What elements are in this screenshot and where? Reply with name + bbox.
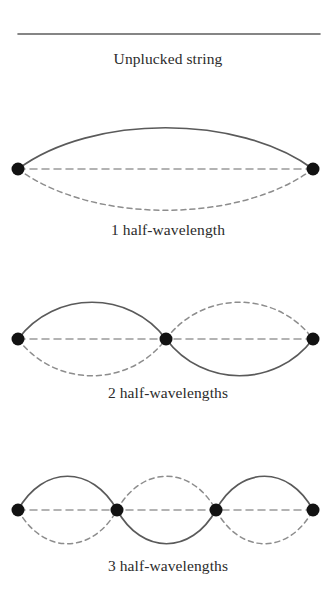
mode-3-graphic <box>0 455 336 559</box>
caption-mode-3: 3 half-wavelengths <box>0 557 336 574</box>
mode-1-graphic <box>0 112 336 228</box>
caption-mode-1: 1 half-wavelength <box>0 221 336 238</box>
node-dot <box>307 163 320 176</box>
caption-unplucked-string: Unplucked string <box>0 50 336 67</box>
panel-unplucked-string <box>0 22 336 46</box>
node-dot <box>12 333 25 346</box>
wave-curve-phase-b <box>18 169 313 210</box>
panel-mode-3 <box>0 455 336 559</box>
panel-mode-1 <box>0 112 336 228</box>
mode-2-graphic <box>0 282 336 392</box>
wave-curve-phase-a <box>18 128 313 169</box>
node-dot <box>307 333 320 346</box>
unplucked-string-graphic <box>0 22 336 46</box>
node-dot <box>160 333 173 346</box>
node-dot <box>210 504 223 517</box>
caption-mode-2: 2 half-wavelengths <box>0 384 336 401</box>
node-dot <box>12 163 25 176</box>
panel-mode-2 <box>0 282 336 392</box>
node-dot <box>111 504 124 517</box>
standing-wave-figure: Unplucked string 1 half-wavelength 2 <box>0 0 336 596</box>
node-dot <box>307 504 320 517</box>
node-dot <box>12 504 25 517</box>
